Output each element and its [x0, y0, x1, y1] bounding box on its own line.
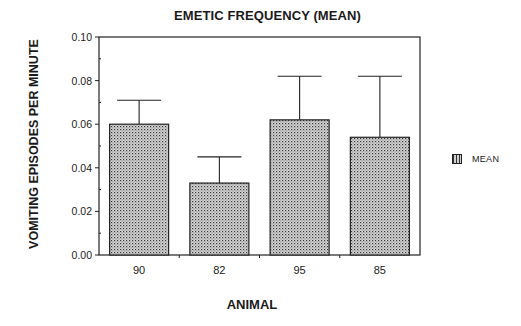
legend-label: MEAN: [472, 154, 499, 164]
y-tick-label: 0.10: [72, 31, 93, 43]
bar-95: [270, 120, 329, 255]
y-tick-label: 0.02: [72, 205, 93, 217]
x-tick-label: 90: [133, 264, 145, 276]
x-tick-label: 82: [213, 264, 225, 276]
y-tick-label: 0.00: [72, 249, 93, 261]
bars: [110, 76, 410, 255]
bar-85: [350, 137, 409, 255]
bar-82: [190, 183, 249, 255]
x-tick-label: 85: [374, 264, 386, 276]
bar-90: [110, 124, 169, 255]
legend-swatch-icon: [452, 154, 462, 164]
legend: MEAN: [452, 154, 499, 164]
y-tick-label: 0.04: [72, 162, 93, 174]
x-tick-label: 95: [294, 264, 306, 276]
y-tick-label: 0.06: [72, 118, 93, 130]
plot-area: 0.000.020.040.060.080.1090829585: [0, 0, 521, 326]
y-tick-label: 0.08: [72, 75, 93, 87]
